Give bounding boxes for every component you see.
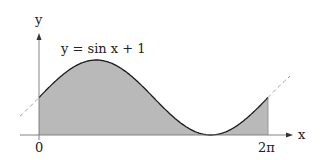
function-label: y = sin x + 1	[60, 41, 146, 56]
x-axis-arrow-icon	[286, 133, 293, 138]
y-axis-label: y	[34, 12, 43, 27]
dashed-extension-right	[268, 76, 290, 97]
tick-label-two-pi: 2π	[258, 140, 275, 155]
x-axis-label: x	[298, 127, 306, 142]
tick-label-zero: 0	[35, 140, 43, 155]
dashed-extension-left	[20, 98, 39, 117]
sine-area-diagram: y x y = sin x + 1 0 2π	[0, 0, 321, 160]
y-axis-arrow-icon	[37, 33, 42, 40]
